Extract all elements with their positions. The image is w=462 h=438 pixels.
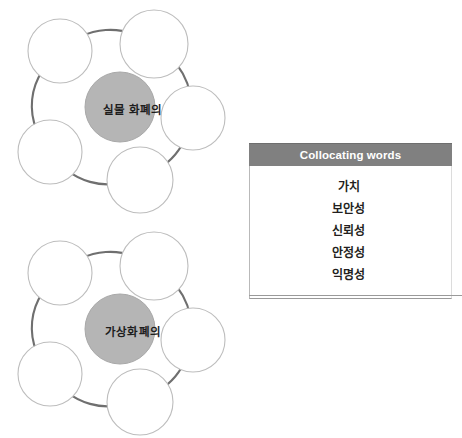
cluster-diagram-physical-currency: 실물 화폐의 (0, 6, 232, 216)
table-row: 가치 (250, 176, 451, 198)
table-row: 안정성 (250, 242, 451, 264)
satellite-circle-2[interactable] (120, 10, 188, 78)
collocating-words-table: Collocating words 가치 보안성 신뢰성 안정성 익명성 (249, 143, 452, 299)
table-row: 신뢰성 (250, 220, 451, 242)
satellite-circle-5[interactable] (18, 120, 82, 184)
satellite-circle-4[interactable] (107, 369, 173, 435)
hub-label: 실물 화폐의 (0, 101, 232, 117)
satellite-circle-2[interactable] (120, 232, 188, 300)
hub-label: 가상화폐의 (0, 323, 232, 339)
table-body: 가치 보안성 신뢰성 안정성 익명성 (249, 166, 452, 299)
satellite-circle-3[interactable] (161, 86, 225, 150)
table-bottom-rule (249, 295, 462, 296)
diagram-canvas: 실물 화폐의 가상화폐의 Collocating words (0, 0, 462, 438)
satellite-circle-1[interactable] (28, 241, 92, 305)
satellite-circle-4[interactable] (107, 147, 173, 213)
table-row: 보안성 (250, 198, 451, 220)
satellite-circle-3[interactable] (161, 308, 225, 372)
satellite-circle-1[interactable] (28, 19, 92, 83)
table-row: 익명성 (250, 264, 451, 286)
cluster-diagram-virtual-currency: 가상화폐의 (0, 228, 232, 438)
table-header: Collocating words (249, 143, 452, 166)
satellite-circle-5[interactable] (18, 342, 82, 406)
